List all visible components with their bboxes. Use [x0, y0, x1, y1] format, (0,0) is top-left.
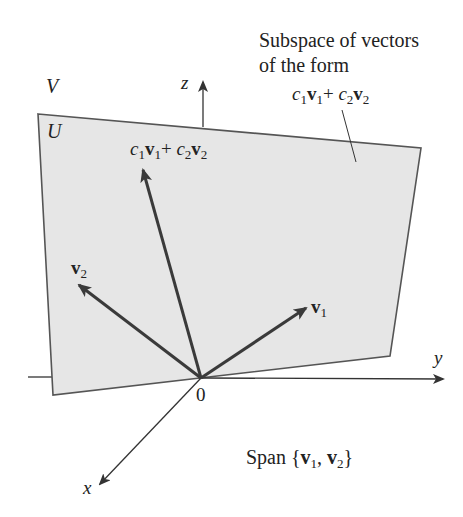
- v1-base: v: [311, 296, 321, 317]
- y-axis: [201, 378, 443, 379]
- subspace-plane: [38, 114, 421, 395]
- label-v2: v2: [71, 258, 87, 277]
- v2-base: v: [71, 257, 81, 278]
- v2-sub: 2: [81, 266, 88, 281]
- vec-v1: v: [307, 83, 317, 104]
- vec-v2: v: [353, 83, 363, 104]
- sub-2b: 2: [363, 92, 370, 107]
- v1-sub: 1: [321, 305, 328, 320]
- caption-combination: c1v1+ c2v2: [292, 84, 369, 103]
- span-suffix: }: [344, 446, 354, 468]
- label-y-axis: y: [434, 348, 442, 367]
- vec-v1: v: [145, 138, 155, 159]
- label-v1: v1: [311, 297, 327, 316]
- span-v1: v: [301, 446, 311, 468]
- sub-2b: 2: [201, 147, 208, 162]
- label-x-axis: x: [83, 478, 91, 497]
- coef-c2: c: [176, 138, 184, 159]
- label-origin: 0: [196, 385, 206, 404]
- label-subspace-U: U: [47, 121, 61, 141]
- vec-v2: v: [191, 138, 201, 159]
- plus: +: [161, 138, 176, 159]
- label-combination-vector: c1v1+ c2v2: [130, 139, 207, 158]
- label-span: Span {v1, v2}: [246, 447, 353, 467]
- caption-line-1: Subspace of vectors: [259, 30, 419, 50]
- span-comma: ,: [317, 446, 327, 468]
- x-axis: [100, 378, 201, 484]
- plus: +: [323, 83, 338, 104]
- span-v2: v: [327, 446, 337, 468]
- diagram-canvas: [0, 0, 463, 517]
- label-z-axis: z: [181, 73, 188, 92]
- coef-c2: c: [338, 83, 346, 104]
- span-prefix: Span {: [246, 446, 301, 468]
- caption-line-2: of the form: [259, 55, 349, 75]
- label-space-V: V: [46, 76, 58, 96]
